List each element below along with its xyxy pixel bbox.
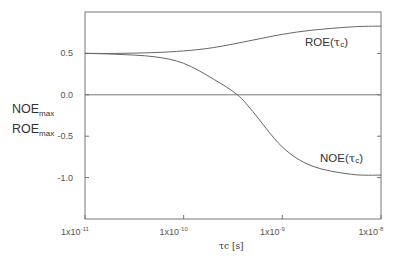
y-tick-label: 0.0 (60, 90, 73, 100)
roe-curve-label: ROE(τc) (305, 35, 348, 49)
y-tick-label: -0.5 (57, 131, 73, 141)
noe-curve-label: NOE(τc) (320, 151, 363, 165)
x-tick-label: 1x10-9 (260, 226, 286, 237)
y-axis-title-noe: NOEmax (12, 102, 54, 118)
y-tick-label: 0.5 (60, 48, 73, 58)
x-tick-label: 1x10-11 (61, 226, 89, 237)
x-tick-label: 1x10-10 (160, 226, 189, 237)
y-axis-title-roe: ROEmax (12, 122, 54, 138)
y-tick-label: -1.0 (57, 173, 73, 183)
x-axis: 1x10-111x10-101x10-91x10-8 (61, 215, 384, 237)
x-axis-title: τc [s] (219, 241, 244, 251)
chart: 0.50.0-0.5-1.0 1x10-111x10-101x10-91x10-… (0, 0, 408, 266)
x-tick-label: 1x10-8 (359, 226, 385, 237)
